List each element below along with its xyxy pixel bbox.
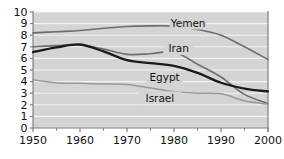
- y-tick-label-2: 2: [21, 99, 28, 112]
- series-label-yemen: Yemen: [170, 17, 206, 29]
- y-tick-label-3: 3: [21, 87, 28, 100]
- y-tick-label-0: 0: [21, 122, 28, 135]
- x-tick-label-1970: 1970: [113, 134, 141, 147]
- y-tick-label-6: 6: [21, 52, 28, 65]
- y-tick-label-7: 7: [21, 41, 28, 54]
- x-tick-label-1980: 1980: [160, 134, 188, 147]
- series-label-israel: Israel: [146, 92, 175, 104]
- y-tick-label-9: 9: [21, 17, 28, 30]
- series-label-egypt: Egypt: [149, 71, 179, 83]
- y-tick-label-4: 4: [21, 75, 28, 88]
- x-tick-label-1990: 1990: [207, 134, 235, 147]
- chart-plot-area: 012345678910 195019601970198019902000 Ye…: [0, 0, 284, 159]
- fertility-rate-line-chart: 012345678910 195019601970198019902000 Ye…: [0, 0, 284, 159]
- x-tick-label-1960: 1960: [66, 134, 94, 147]
- y-tick-label-1: 1: [21, 110, 28, 123]
- y-tick-label-5: 5: [21, 64, 28, 77]
- series-label-iran: Iran: [168, 42, 189, 54]
- chart-svg-canvas: 012345678910 195019601970198019902000 Ye…: [0, 0, 284, 159]
- y-tick-label-10: 10: [14, 6, 28, 19]
- x-tick-label-1950: 1950: [19, 134, 47, 147]
- y-tick-label-8: 8: [21, 29, 28, 42]
- x-tick-label-2000: 2000: [254, 134, 282, 147]
